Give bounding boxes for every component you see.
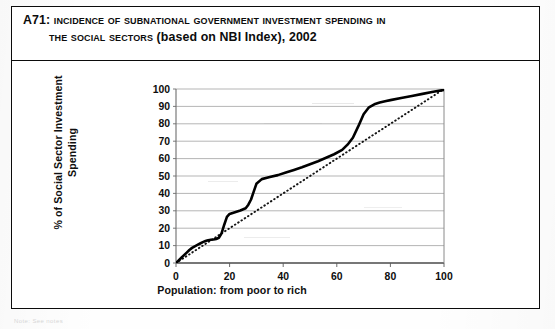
title-line-2-smallcaps: the Social Sectors [49,30,153,44]
x-tick-label-100: 100 [435,271,453,282]
chart-container: 020406080100 0102030405060708090100 % of… [12,61,539,308]
y-tick-label-50: 50 [158,171,170,182]
y-tick-label-30: 30 [158,205,170,216]
x-tick-label-80: 80 [385,271,397,282]
x-axis-tick-marks [176,263,444,267]
figure-frame: A71: Incidence of Subnational Government… [11,6,540,309]
y-tick-label-10: 10 [158,240,170,251]
page-footnote: Note: See notes [14,318,63,324]
title-colon: : [46,13,54,27]
y-tick-label-90: 90 [158,101,170,112]
table-code: A71 [23,13,46,27]
x-tick-label-20: 20 [224,271,236,282]
y-tick-label-40: 40 [158,188,170,199]
x-tick-label-40: 40 [277,271,289,282]
y-tick-label-60: 60 [158,153,170,164]
y-tick-label-20: 20 [158,223,170,234]
x-tick-label-0: 0 [173,271,179,282]
title-band: A71: Incidence of Subnational Government… [12,7,539,61]
lorenz-concentration-chart: 020406080100 0102030405060708090100 [12,61,541,308]
title-line-2-wrapper: the Social Sectors (based on NBI Index),… [23,29,529,46]
page-background: A71: Incidence of Subnational Government… [0,0,555,329]
page-title: A71: Incidence of Subnational Government… [23,12,529,45]
x-axis-tick-labels: 020406080100 [173,271,453,282]
y-tick-label-100: 100 [153,84,171,95]
title-line-2-rest: (based on NBI Index), 2002 [157,30,317,44]
x-tick-label-60: 60 [331,271,343,282]
y-tick-label-80: 80 [158,118,170,129]
y-tick-label-0: 0 [164,258,170,269]
y-tick-label-70: 70 [158,136,170,147]
y-axis-tick-labels: 0102030405060708090100 [153,84,171,269]
y-axis-title: % of Social Sector Investment Spending [52,58,79,248]
x-axis-title: Population: from poor to rich [12,284,452,296]
title-line-1: Incidence of Subnational Government Inve… [54,13,386,27]
